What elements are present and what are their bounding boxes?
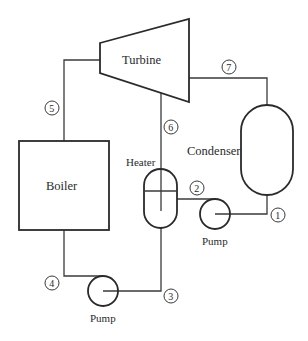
- pipe-state-1: [215, 195, 267, 214]
- pipe-state-4: [64, 230, 103, 276]
- pipe-state-3: [103, 228, 161, 291]
- state-marker-4: 4: [45, 276, 59, 290]
- state-marker-2: 2: [190, 181, 204, 195]
- state-marker-7: 7: [222, 60, 236, 74]
- svg-text:3: 3: [168, 291, 173, 302]
- state-marker-3: 3: [164, 289, 178, 303]
- pipe-state-7: [189, 78, 267, 105]
- svg-text:6: 6: [168, 122, 173, 133]
- svg-text:5: 5: [49, 103, 54, 114]
- pipe-state-5: [64, 60, 100, 141]
- rankine-cycle-diagram: Turbine Condenser Boiler Heater Pump Pum…: [0, 0, 308, 341]
- state-marker-5: 5: [45, 101, 59, 115]
- condenser-shape: [241, 105, 293, 195]
- heater-label: Heater: [126, 156, 156, 168]
- svg-text:1: 1: [275, 210, 280, 221]
- turbine-label: Turbine: [122, 53, 162, 67]
- condenser-label: Condenser: [187, 144, 241, 158]
- condensate-pump-label: Pump: [202, 235, 228, 247]
- svg-text:7: 7: [226, 62, 231, 73]
- state-marker-1: 1: [271, 208, 285, 222]
- boiler-label: Boiler: [46, 179, 78, 193]
- state-marker-6: 6: [164, 120, 178, 134]
- svg-text:4: 4: [49, 278, 54, 289]
- feed-pump-label: Pump: [90, 312, 116, 324]
- svg-text:2: 2: [194, 183, 199, 194]
